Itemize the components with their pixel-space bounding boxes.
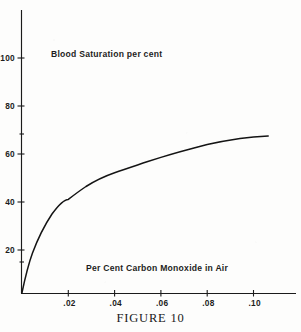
x-tick-label-008: .08 [202, 298, 215, 308]
blood-saturation-annotation: Blood Saturation per cent [51, 49, 162, 59]
x-tick-label-002: .02 [63, 298, 76, 308]
y-tick-labels: 20 40 60 80 100 [0, 53, 15, 255]
x-tick-label-010: .10 [248, 298, 261, 308]
blood-saturation-chart: 20 40 60 80 100 .02 .04 .06 .08 .10 Bloo… [0, 0, 301, 332]
figure-container: 20 40 60 80 100 .02 .04 .06 .08 .10 Bloo… [0, 0, 301, 332]
x-tick-label-006: .06 [156, 298, 169, 308]
y-tick-label-60: 60 [5, 149, 15, 159]
y-tick-label-80: 80 [5, 101, 15, 111]
y-tick-label-40: 40 [5, 197, 15, 207]
y-tick-label-100: 100 [0, 53, 15, 63]
y-tick-label-20: 20 [5, 245, 15, 255]
carbon-monoxide-annotation: Per Cent Carbon Monoxide in Air [86, 263, 228, 273]
x-tick-labels: .02 .04 .06 .08 .10 [63, 298, 261, 308]
figure-caption: FIGURE 10 [0, 311, 301, 326]
x-tick-label-004: .04 [110, 298, 123, 308]
